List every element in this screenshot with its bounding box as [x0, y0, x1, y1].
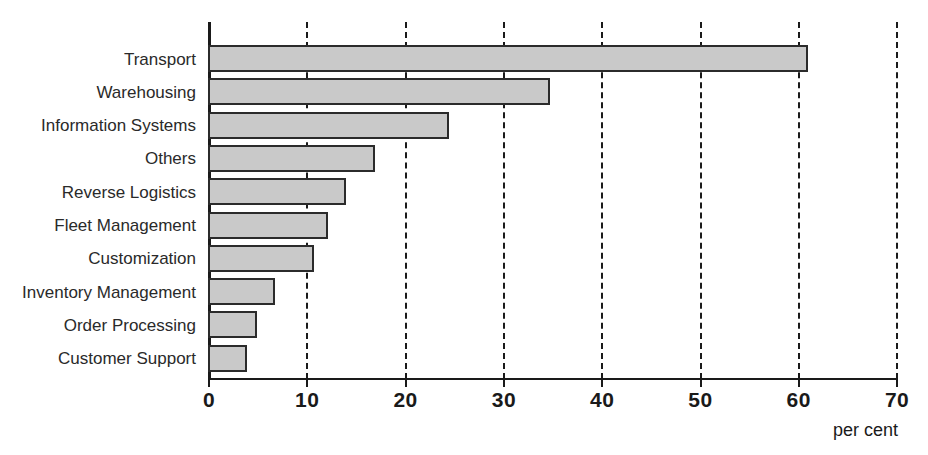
x-tick-mark-10	[306, 378, 308, 387]
gridline-70	[896, 22, 898, 379]
y-axis-category-labels: TransportWarehousingInformation SystemsO…	[0, 0, 202, 455]
x-tick-mark-70	[896, 378, 898, 387]
category-label-inventory-management: Inventory Management	[22, 283, 196, 300]
gridline-30	[503, 22, 505, 379]
category-label-order-processing: Order Processing	[64, 316, 196, 333]
x-axis-line	[208, 378, 898, 380]
x-tick-mark-50	[700, 378, 702, 387]
bar-chart: TransportWarehousingInformation SystemsO…	[0, 0, 928, 455]
x-tick-label-20: 20	[393, 388, 417, 412]
x-tick-mark-20	[405, 378, 407, 387]
x-tick-mark-40	[601, 378, 603, 387]
x-tick-label-0: 0	[203, 388, 215, 412]
gridline-20	[405, 22, 407, 379]
x-tick-label-50: 50	[688, 388, 712, 412]
category-label-reverse-logistics: Reverse Logistics	[62, 183, 196, 200]
bar-warehousing	[208, 78, 550, 105]
bar-order-processing	[208, 311, 257, 338]
bar-others	[208, 145, 375, 172]
gridline-40	[601, 22, 603, 379]
x-tick-label-30: 30	[492, 388, 516, 412]
gridline-60	[798, 22, 800, 379]
bar-fleet-management	[208, 212, 328, 239]
category-label-transport: Transport	[124, 50, 196, 67]
bar-row	[208, 345, 247, 372]
x-axis-unit-caption: per cent	[833, 420, 898, 441]
category-label-fleet-management: Fleet Management	[54, 217, 196, 234]
category-label-customization: Customization	[88, 250, 196, 267]
x-tick-label-70: 70	[885, 388, 909, 412]
bar-row	[208, 278, 275, 305]
x-tick-mark-60	[798, 378, 800, 387]
category-label-information-systems: Information Systems	[41, 117, 196, 134]
bar-information-systems	[208, 112, 449, 139]
category-label-warehousing: Warehousing	[96, 83, 196, 100]
x-tick-mark-0	[208, 378, 210, 387]
category-label-others: Others	[145, 150, 196, 167]
bar-customer-support	[208, 345, 247, 372]
bar-inventory-management	[208, 278, 275, 305]
x-tick-mark-30	[503, 378, 505, 387]
bar-transport	[208, 45, 808, 72]
category-label-customer-support: Customer Support	[58, 350, 196, 367]
bar-row	[208, 112, 449, 139]
bar-row	[208, 178, 346, 205]
gridline-50	[700, 22, 702, 379]
bar-customization	[208, 245, 314, 272]
bar-reverse-logistics	[208, 178, 346, 205]
x-tick-label-10: 10	[295, 388, 319, 412]
bar-row	[208, 212, 328, 239]
bar-row	[208, 78, 550, 105]
bar-row	[208, 145, 375, 172]
x-tick-label-60: 60	[787, 388, 811, 412]
bar-row	[208, 311, 257, 338]
bar-row	[208, 45, 808, 72]
bar-row	[208, 245, 314, 272]
x-tick-label-40: 40	[590, 388, 614, 412]
